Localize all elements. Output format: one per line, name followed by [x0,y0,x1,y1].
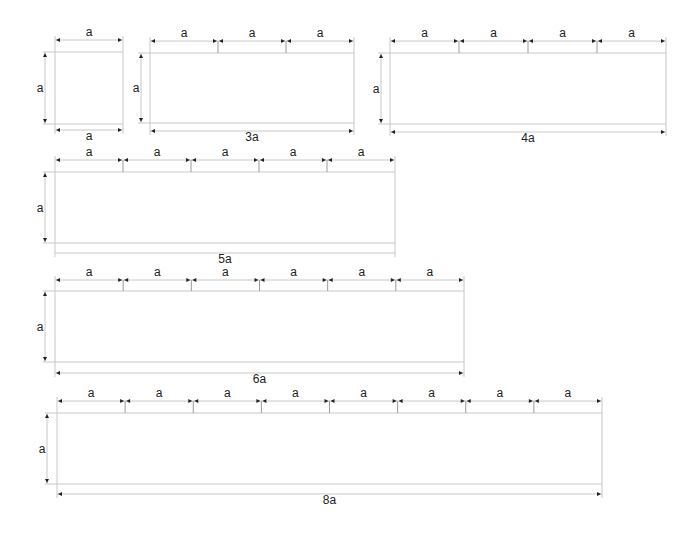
segment-label: a [154,145,161,159]
arrowhead-icon [43,173,47,177]
arrowhead-icon [43,357,47,361]
total-length-label: 4a [521,131,535,145]
segment-label: a [290,145,297,159]
arrowhead-icon [124,158,128,162]
arrowhead-icon [186,158,190,162]
segment-label: a [292,386,299,400]
segment-label: a [628,26,635,40]
arrowhead-icon [45,414,49,418]
arrowhead-icon [391,278,395,282]
arrowhead-icon [322,158,326,162]
arrowhead-icon [459,278,463,282]
arrowhead-icon [331,399,335,403]
arrowhead-icon [139,54,143,58]
arrowhead-icon [393,399,397,403]
arrowhead-icon [598,39,602,43]
height-label: a [373,82,380,96]
segment-label: a [86,25,93,39]
arrowhead-icon [219,39,223,43]
arrowhead-icon [454,39,458,43]
total-length-label: a [86,129,93,143]
arrowhead-icon [467,399,471,403]
arrowhead-icon [186,278,190,282]
arrowhead-icon [255,278,259,282]
figure-fig-3a: aaaa3a [133,26,354,144]
total-length-label: 8a [323,493,337,507]
arrowhead-icon [460,39,464,43]
figure-fig-6a: aaaaaaa6a [37,265,464,386]
arrowhead-icon [597,492,601,496]
segment-label: a [156,386,163,400]
arrowhead-icon [379,119,383,123]
arrowhead-icon [124,278,128,282]
arrowhead-icon [56,158,60,162]
segment-label: a [222,265,229,279]
arrowhead-icon [139,118,143,122]
segment-label: a [154,265,161,279]
segment-label: a [290,265,297,279]
segment-label: a [360,386,367,400]
figure-fig-5a: aaaaaa5a [37,145,395,266]
segment-label: a [86,265,93,279]
total-length-label: 5a [218,252,232,266]
arrowhead-icon [56,371,60,375]
height-label: a [39,442,46,456]
total-length-label: 6a [253,372,267,386]
arrowhead-icon [661,39,665,43]
arrowhead-icon [529,39,533,43]
arrowhead-icon [461,399,465,403]
segment-label: a [427,265,434,279]
segment-label: a [224,386,231,400]
arrowhead-icon [261,278,265,282]
height-label: a [37,81,44,95]
arrowhead-icon [661,130,665,134]
arrowhead-icon [43,53,47,57]
arrowhead-icon [120,399,124,403]
arrowhead-icon [118,38,122,42]
segment-label: a [496,386,503,400]
arrowhead-icon [597,399,601,403]
segment-label: a [358,265,365,279]
arrowhead-icon [192,278,196,282]
arrowhead-icon [126,399,130,403]
arrowhead-icon [287,39,291,43]
arrowhead-icon [391,130,395,134]
arrowhead-icon [390,158,394,162]
arrowhead-icon [56,278,60,282]
arrowhead-icon [188,399,192,403]
segment-label: a [181,26,188,40]
segment-label: a [358,145,365,159]
arrowhead-icon [151,129,155,133]
total-length-label: 3a [245,130,259,144]
figure-fig-8a: aaaaaaaaa8a [39,386,602,507]
segment-label: a [317,26,324,40]
figures-group: aaaaaaa3aaaaaa4aaaaaaa5aaaaaaaa6aaaaaaaa… [37,25,666,507]
arrowhead-icon [43,119,47,123]
segment-label: a [88,386,95,400]
arrowhead-icon [535,399,539,403]
arrowhead-icon [118,128,122,132]
arrowhead-icon [529,399,533,403]
arrowhead-icon [328,158,332,162]
arrowhead-icon [592,39,596,43]
arrowhead-icon [397,278,401,282]
arrowhead-icon [43,238,47,242]
arrowhead-icon [391,39,395,43]
arrowhead-icon [192,158,196,162]
segment-label: a [559,26,566,40]
arrowhead-icon [329,278,333,282]
arrowhead-icon [349,129,353,133]
arrowhead-icon [58,399,62,403]
height-label: a [37,320,44,334]
segment-label: a [428,386,435,400]
segment-label: a [421,26,428,40]
arrowhead-icon [379,54,383,58]
arrowhead-icon [262,399,266,403]
arrowhead-icon [58,492,62,496]
arrowhead-icon [323,278,327,282]
height-label: a [37,201,44,215]
arrowhead-icon [45,479,49,483]
segment-label: a [222,145,229,159]
segment-label: a [249,26,256,40]
arrowhead-icon [281,39,285,43]
